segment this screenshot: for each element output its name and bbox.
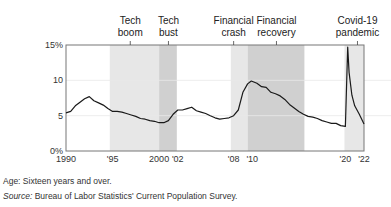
age-note: Age: Sixteen years and over. [3,176,112,186]
period-label: Covid-19 [337,15,377,26]
x-tick-label: '20 [340,154,352,164]
shaded-periods [110,45,364,151]
shaded-period [248,45,305,151]
shaded-period [110,45,159,151]
axes: 0%51015%1990'952000'02'08'10'20'22 [45,40,370,164]
period-label: Financial [256,15,296,26]
shaded-period [231,45,248,151]
source-text: Bureau of Labor Statistics' Current Popu… [32,191,237,201]
x-tick-label: '95 [107,154,119,164]
x-tick-label: 2000 [149,154,169,164]
period-label: Tech [120,15,141,26]
y-tick-label: 5 [58,111,63,121]
shaded-period [159,45,177,151]
x-tick-label: '10 [246,154,258,164]
x-tick-label: '22 [358,154,370,164]
x-tick-label: 1990 [56,154,76,164]
x-tick-label: '08 [228,154,240,164]
period-label: bust [159,27,178,38]
period-label: pandemic [336,27,379,38]
period-label: Financial [214,15,254,26]
period-label: boom [118,27,143,38]
period-label: recovery [257,27,295,38]
y-tick-label: 10 [53,75,63,85]
x-tick-label: '02 [172,154,184,164]
y-tick-label: 15% [45,40,63,50]
unemployment-line-chart: 0%51015%1990'952000'02'08'10'20'22 Techb… [0,0,391,170]
source-note: Source: Bureau of Labor Statistics' Curr… [3,191,237,201]
period-labels: TechboomTechbustFinancialcrashFinancialr… [118,15,379,45]
source-label: Source: [3,191,32,201]
period-label: Tech [158,15,179,26]
period-label: crash [221,27,245,38]
